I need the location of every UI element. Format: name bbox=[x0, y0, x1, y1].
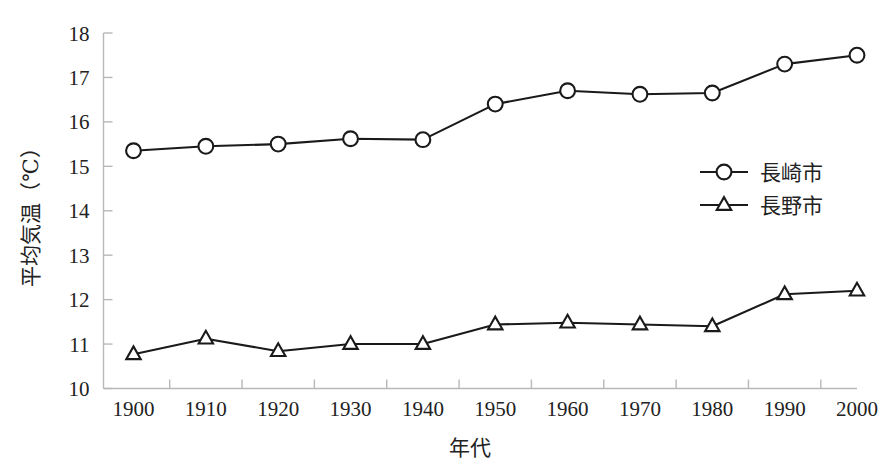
x-tick-label: 1900 bbox=[113, 397, 155, 421]
y-tick-label: 13 bbox=[69, 244, 90, 268]
x-axis-title: 年代 bbox=[449, 436, 491, 460]
y-axis-title: 平均気温（℃） bbox=[19, 137, 43, 287]
temperature-line-chart: 101112131415161718 190019101920193019401… bbox=[0, 0, 878, 473]
y-tick-label: 12 bbox=[69, 288, 90, 312]
legend-label: 長崎市 bbox=[760, 161, 823, 185]
data-point-marker bbox=[850, 48, 865, 63]
x-tick-label: 1960 bbox=[547, 397, 589, 421]
data-point-marker bbox=[271, 137, 286, 152]
legend-label: 長野市 bbox=[760, 194, 823, 218]
data-point-marker bbox=[633, 87, 648, 102]
x-tick-label: 1980 bbox=[691, 397, 733, 421]
x-tick-label: 1910 bbox=[185, 397, 227, 421]
y-tick-label: 14 bbox=[69, 199, 91, 223]
data-point-marker bbox=[705, 86, 720, 101]
y-tick-label: 16 bbox=[69, 110, 90, 134]
y-tick-label: 17 bbox=[69, 66, 90, 90]
x-tick-label: 1940 bbox=[402, 397, 444, 421]
data-point-marker bbox=[488, 97, 503, 112]
x-tick-label: 1990 bbox=[764, 397, 806, 421]
y-tick-label: 11 bbox=[69, 333, 89, 357]
x-tick-label: 2000 bbox=[836, 397, 878, 421]
y-axis-tick-labels: 101112131415161718 bbox=[69, 22, 91, 402]
data-point-marker bbox=[777, 57, 792, 72]
chart-canvas: 101112131415161718 190019101920193019401… bbox=[0, 0, 878, 473]
y-tick-label: 10 bbox=[69, 377, 90, 401]
y-tick-label: 15 bbox=[69, 155, 90, 179]
data-point-marker bbox=[126, 143, 141, 158]
x-tick-label: 1930 bbox=[330, 397, 372, 421]
data-point-marker bbox=[560, 83, 575, 98]
data-point-marker bbox=[343, 131, 358, 146]
data-point-marker bbox=[198, 139, 213, 154]
x-tick-label: 1950 bbox=[474, 397, 516, 421]
data-point-marker bbox=[717, 165, 732, 180]
y-tick-label: 18 bbox=[69, 22, 90, 46]
data-point-marker bbox=[416, 132, 431, 147]
x-tick-label: 1970 bbox=[619, 397, 661, 421]
x-tick-label: 1920 bbox=[257, 397, 299, 421]
